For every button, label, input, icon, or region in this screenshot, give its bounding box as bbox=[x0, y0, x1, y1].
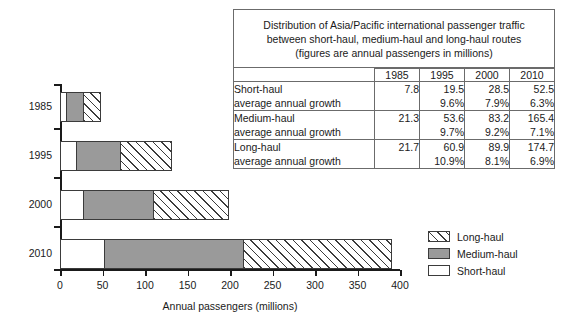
bar-2010 bbox=[60, 239, 394, 269]
table-row-label-short-haul: Short-haulaverage annual growth bbox=[234, 82, 375, 111]
x-axis-tick-200 bbox=[230, 270, 232, 276]
bar-segment-1985-medium-haul bbox=[66, 92, 84, 122]
cell-growth bbox=[375, 125, 419, 139]
stacked-bar-chart-figure: 1985199520002010 05010015020025030035040… bbox=[0, 0, 563, 326]
table-row: Long-haulaverage annual growth21.7 60.91… bbox=[234, 140, 554, 169]
x-axis-title: Annual passengers (millions) bbox=[60, 300, 400, 312]
x-axis-tick-250 bbox=[273, 270, 275, 276]
x-axis-label-150: 150 bbox=[168, 279, 208, 291]
bar-2000 bbox=[60, 190, 231, 220]
table-row: Short-haulaverage annual growth7.8 19.59… bbox=[234, 82, 554, 111]
column-header-1985: 1985 bbox=[375, 69, 420, 82]
y-axis-tick-2 bbox=[54, 177, 60, 179]
cell-growth: 6.9% bbox=[510, 154, 554, 168]
legend-label-medium-haul: Medium-haul bbox=[457, 248, 518, 260]
table-cell-medium-haul-2010: 165.47.1% bbox=[510, 111, 555, 140]
y-axis-label-1995: 1995 bbox=[8, 149, 52, 161]
legend-swatch-medium-haul bbox=[428, 248, 450, 259]
cell-value: 28.5 bbox=[465, 82, 509, 96]
row-name: Medium-haul bbox=[234, 111, 374, 125]
x-axis-label-350: 350 bbox=[338, 279, 378, 291]
table-cell-long-haul-1985: 21.7 bbox=[375, 140, 420, 169]
bar-segment-1985-long-haul bbox=[83, 92, 101, 122]
cell-value: 165.4 bbox=[510, 111, 554, 125]
legend-item-long-haul[interactable]: Long-haul bbox=[428, 229, 518, 244]
bar-segment-1995-short-haul bbox=[60, 141, 77, 171]
bar-segment-1995-medium-haul bbox=[76, 141, 122, 171]
cell-growth: 9.7% bbox=[420, 125, 464, 139]
x-axis-tick-50 bbox=[103, 270, 105, 276]
cell-value: 53.6 bbox=[420, 111, 464, 125]
bar-segment-2010-medium-haul bbox=[104, 239, 245, 269]
chart-legend: Long-haulMedium-haulShort-haul bbox=[428, 229, 518, 280]
legend-item-short-haul[interactable]: Short-haul bbox=[428, 263, 518, 278]
legend-swatch-short-haul bbox=[428, 265, 450, 276]
cell-growth: 9.6% bbox=[420, 96, 464, 110]
y-axis-tick-0 bbox=[54, 84, 60, 86]
legend-swatch-long-haul bbox=[428, 231, 450, 242]
cell-value: 60.9 bbox=[420, 140, 464, 154]
y-axis-label-2000: 2000 bbox=[8, 198, 52, 210]
table-cell-long-haul-2000: 89.98.1% bbox=[465, 140, 510, 169]
table-header-row: 1985 1995 2000 2010 bbox=[234, 69, 554, 82]
row-name: Short-haul bbox=[234, 82, 374, 96]
table-cell-short-haul-1995: 19.59.6% bbox=[420, 82, 465, 111]
legend-label-long-haul: Long-haul bbox=[457, 231, 504, 243]
cell-growth bbox=[375, 154, 419, 168]
table-cell-medium-haul-2000: 83.29.2% bbox=[465, 111, 510, 140]
cell-value: 83.2 bbox=[465, 111, 509, 125]
x-axis-label-300: 300 bbox=[295, 279, 335, 291]
cell-value: 52.5 bbox=[510, 82, 554, 96]
x-axis-tick-400 bbox=[400, 270, 402, 276]
y-axis-tick-1 bbox=[54, 128, 60, 130]
bar-segment-2000-medium-haul bbox=[83, 190, 154, 220]
y-axis-tick-3 bbox=[54, 226, 60, 228]
cell-growth: 7.9% bbox=[465, 96, 509, 110]
table-title: Distribution of Asia/Pacific internation… bbox=[234, 10, 554, 68]
cell-growth: 7.1% bbox=[510, 125, 554, 139]
table-cell-long-haul-2010: 174.76.9% bbox=[510, 140, 555, 169]
data-table-panel: Distribution of Asia/Pacific internation… bbox=[233, 9, 555, 169]
table-corner-header bbox=[234, 69, 375, 82]
table-title-line-3: (figures are annual passengers in millio… bbox=[240, 46, 548, 60]
column-header-1995: 1995 bbox=[420, 69, 465, 82]
passenger-traffic-table: 1985 1995 2000 2010 Short-haulaverage an… bbox=[234, 68, 554, 168]
legend-label-short-haul: Short-haul bbox=[457, 265, 505, 277]
cell-value: 89.9 bbox=[465, 140, 509, 154]
row-subtitle: average annual growth bbox=[234, 96, 374, 110]
table-row: Medium-haulaverage annual growth21.3 53.… bbox=[234, 111, 554, 140]
x-axis-label-250: 250 bbox=[253, 279, 293, 291]
table-cell-long-haul-1995: 60.910.9% bbox=[420, 140, 465, 169]
x-axis-label-0: 0 bbox=[40, 279, 80, 291]
bar-segment-2010-short-haul bbox=[60, 239, 105, 269]
y-axis-label-1985: 1985 bbox=[8, 100, 52, 112]
cell-growth: 10.9% bbox=[420, 154, 464, 168]
table-cell-short-haul-2010: 52.56.3% bbox=[510, 82, 555, 111]
x-axis-tick-0 bbox=[60, 270, 62, 276]
column-header-2010: 2010 bbox=[510, 69, 555, 82]
cell-growth bbox=[375, 96, 419, 110]
legend-item-medium-haul[interactable]: Medium-haul bbox=[428, 246, 518, 261]
bar-1995 bbox=[60, 141, 174, 171]
x-axis-label-400: 400 bbox=[380, 279, 420, 291]
row-subtitle: average annual growth bbox=[234, 125, 374, 139]
x-axis-tick-300 bbox=[315, 270, 317, 276]
cell-value: 21.7 bbox=[375, 140, 419, 154]
x-axis-label-100: 100 bbox=[125, 279, 165, 291]
cell-value: 21.3 bbox=[375, 111, 419, 125]
table-cell-medium-haul-1995: 53.69.7% bbox=[420, 111, 465, 140]
bar-segment-2000-short-haul bbox=[60, 190, 84, 220]
table-row-label-medium-haul: Medium-haulaverage annual growth bbox=[234, 111, 375, 140]
bar-segment-1995-long-haul bbox=[120, 141, 172, 171]
table-cell-short-haul-2000: 28.57.9% bbox=[465, 82, 510, 111]
bar-segment-2000-long-haul bbox=[153, 190, 229, 220]
x-axis-tick-350 bbox=[358, 270, 360, 276]
table-title-line-2: between short-haul, medium-haul and long… bbox=[240, 32, 548, 46]
table-row-label-long-haul: Long-haulaverage annual growth bbox=[234, 140, 375, 169]
y-axis-label-2010: 2010 bbox=[8, 247, 52, 259]
row-subtitle: average annual growth bbox=[234, 154, 374, 168]
column-header-2000: 2000 bbox=[465, 69, 510, 82]
cell-value: 19.5 bbox=[420, 82, 464, 96]
row-name: Long-haul bbox=[234, 140, 374, 154]
table-cell-medium-haul-1985: 21.3 bbox=[375, 111, 420, 140]
